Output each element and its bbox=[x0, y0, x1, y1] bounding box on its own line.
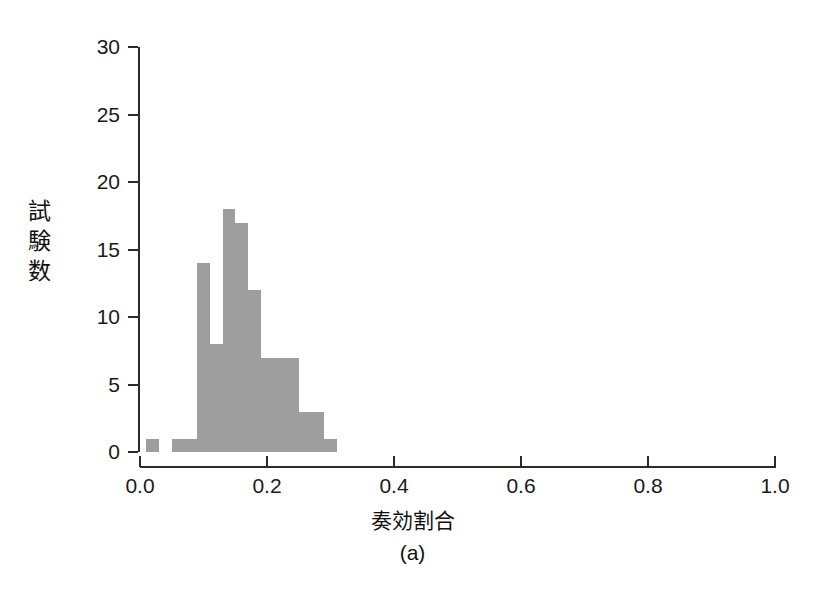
histogram-bar bbox=[299, 412, 312, 453]
x-axis-tick-label: 0.6 bbox=[481, 474, 561, 498]
y-axis-tick-label: 15 bbox=[64, 239, 120, 260]
y-axis-tick bbox=[128, 249, 138, 251]
histogram-bar bbox=[197, 263, 210, 452]
y-axis-tick bbox=[128, 316, 138, 318]
histogram-bar bbox=[210, 344, 223, 452]
plot-area bbox=[140, 47, 775, 452]
y-axis-tick bbox=[128, 46, 138, 48]
x-axis-tick bbox=[266, 456, 268, 467]
y-axis-tick bbox=[128, 114, 138, 116]
histogram-bar bbox=[223, 209, 236, 452]
y-axis-title-char: 試 bbox=[22, 196, 56, 226]
histogram-bar bbox=[286, 358, 299, 453]
histogram-bar bbox=[324, 439, 337, 453]
x-axis-tick bbox=[774, 456, 776, 467]
y-axis-tick bbox=[128, 451, 138, 453]
y-axis-tick bbox=[128, 384, 138, 386]
x-axis-tick bbox=[393, 456, 395, 467]
x-axis-tick-label: 0.0 bbox=[100, 474, 180, 498]
x-axis-tick-label: 0.4 bbox=[354, 474, 434, 498]
x-axis-tick-label: 0.2 bbox=[227, 474, 307, 498]
x-axis-tick bbox=[520, 456, 522, 467]
y-axis-title-char: 数 bbox=[22, 256, 56, 286]
histogram-bar bbox=[146, 439, 159, 453]
histogram-figure: 051015202530 試験数 0.00.20.40.60.81.0 奏効割合… bbox=[0, 0, 825, 613]
x-axis-tick-label: 0.8 bbox=[608, 474, 688, 498]
histogram-bar bbox=[235, 223, 248, 453]
y-axis-tick bbox=[128, 181, 138, 183]
y-axis-tick-label: 30 bbox=[64, 36, 120, 57]
x-axis-tick bbox=[139, 456, 141, 467]
x-axis-tick-label: 1.0 bbox=[735, 474, 815, 498]
y-axis-tick-label: 25 bbox=[64, 104, 120, 125]
y-axis-tick-label: 5 bbox=[64, 374, 120, 395]
x-axis-tick bbox=[647, 456, 649, 467]
y-axis-tick-label: 10 bbox=[64, 306, 120, 327]
y-axis-line bbox=[138, 47, 140, 452]
x-axis-line bbox=[140, 466, 776, 468]
y-axis-tick-label: 0 bbox=[64, 441, 120, 462]
y-axis-title-char: 験 bbox=[22, 226, 56, 256]
histogram-bar bbox=[184, 439, 197, 453]
histogram-bar bbox=[261, 358, 274, 453]
histogram-bar bbox=[248, 290, 261, 452]
y-axis-tick-label: 20 bbox=[64, 171, 120, 192]
histogram-bar bbox=[172, 439, 185, 453]
x-axis-title: 奏効割合 bbox=[0, 509, 825, 533]
histogram-bar bbox=[273, 358, 286, 453]
y-axis-title: 試験数 bbox=[22, 196, 56, 286]
histogram-bar bbox=[311, 412, 324, 453]
panel-caption: (a) bbox=[0, 541, 825, 565]
